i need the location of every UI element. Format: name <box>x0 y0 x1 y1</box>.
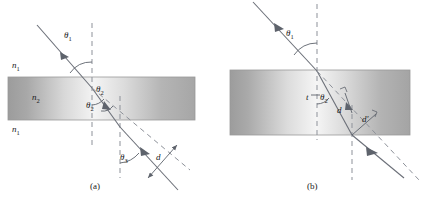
label-t-b: t <box>306 92 309 102</box>
label-theta1-b: θ1 <box>286 28 294 40</box>
label-d-prime-b: d′ <box>362 114 368 124</box>
refraction-figure: n1 n2 n1 θ1 θ2 θ2 θ3 <box>0 0 421 201</box>
label-theta1-a: θ1 <box>64 30 72 42</box>
label-d-a: d <box>156 152 161 162</box>
panel-b: θ1 θ2 t d d′ (b) <box>210 0 421 201</box>
label-theta3-a: θ3 <box>120 152 128 164</box>
label-n1-top-a: n1 <box>12 60 20 72</box>
label-n2-slab-a: n2 <box>32 92 40 104</box>
label-theta2-lower-a: θ2 <box>86 100 94 112</box>
label-theta2-upper-a: θ2 <box>96 84 104 96</box>
label-n1-bottom-a: n1 <box>12 124 20 136</box>
label-theta2-b: θ2 <box>320 92 328 104</box>
caption-b: (b) <box>307 181 318 191</box>
panel-a: n1 n2 n1 θ1 θ2 θ2 θ3 <box>0 0 210 201</box>
label-d-b: d <box>337 105 342 115</box>
caption-a: (a) <box>90 181 100 191</box>
